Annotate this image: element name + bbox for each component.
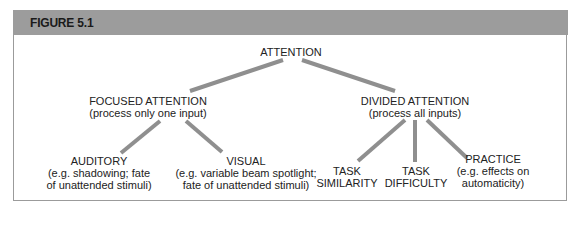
node-task-difficulty: TASK DIFFICULTY [385,165,448,189]
node-focused-subtitle: (process only one input) [89,107,207,119]
node-auditory: AUDITORY (e.g. shadowing; fate of unatte… [46,155,151,191]
node-auditory-title: AUDITORY [46,155,151,167]
node-practice: PRACTICE (e.g. effects on automaticity) [457,153,530,189]
node-divided-attention: DIVIDED ATTENTION (process all inputs) [361,95,470,119]
node-divided-subtitle: (process all inputs) [361,107,470,119]
node-visual-title: VISUAL [175,155,316,167]
node-practice-line2: automaticity) [457,177,530,189]
link-attention-focused [190,60,283,91]
node-auditory-line1: (e.g. shadowing; fate [46,167,151,179]
node-task-difficulty-line2: DIFFICULTY [385,177,448,189]
node-divided-title: DIVIDED ATTENTION [361,95,470,107]
node-visual-line2: fate of unattended stimuli) [175,179,316,191]
link-attention-divided [302,60,395,91]
node-visual: VISUAL (e.g. variable beam spotlight; fa… [175,155,316,191]
node-task-similarity-line2: SIMILARITY [316,177,377,189]
node-attention: ATTENTION [260,46,322,58]
node-auditory-line2: of unattended stimuli) [46,179,151,191]
node-practice-line1: (e.g. effects on [457,165,530,177]
node-practice-title: PRACTICE [457,153,530,165]
node-visual-line1: (e.g. variable beam spotlight; [175,167,316,179]
link-divided-similarity [358,120,405,161]
node-task-similarity: TASK SIMILARITY [316,165,377,189]
node-attention-title: ATTENTION [260,46,322,58]
link-focused-visual [186,121,222,152]
node-task-difficulty-line1: TASK [385,165,448,177]
link-focused-auditory [121,121,160,153]
node-task-similarity-line1: TASK [316,165,377,177]
node-focused-attention: FOCUSED ATTENTION (process only one inpu… [89,95,207,119]
node-focused-title: FOCUSED ATTENTION [89,95,207,107]
